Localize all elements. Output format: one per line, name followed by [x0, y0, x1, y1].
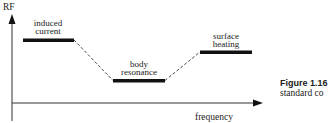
rf-frequency-diagram: RF induced current body resonance surfac…	[0, 0, 333, 123]
x-axis-arrow-icon	[253, 100, 263, 107]
surface-heating-bar	[200, 51, 252, 55]
label-line: current	[28, 27, 68, 35]
label-line: resonance	[113, 68, 165, 76]
y-axis-arrow-icon	[9, 14, 16, 24]
induced-current-label: induced current	[28, 19, 68, 35]
body-resonance-bar	[113, 79, 165, 83]
transition-line-1	[74, 40, 113, 81]
y-axis-label: RF	[3, 2, 15, 12]
surface-heating-label: surface heating	[203, 32, 249, 48]
caption-text: standard co	[280, 88, 328, 98]
label-line: heating	[203, 40, 249, 48]
body-resonance-label: body resonance	[113, 60, 165, 76]
figure-number: Figure 1.16	[280, 78, 328, 88]
figure-caption: Figure 1.16 standard co	[280, 78, 328, 98]
induced-current-bar	[23, 39, 74, 43]
transition-line-2	[165, 52, 200, 81]
x-axis-label: frequency	[183, 112, 245, 122]
